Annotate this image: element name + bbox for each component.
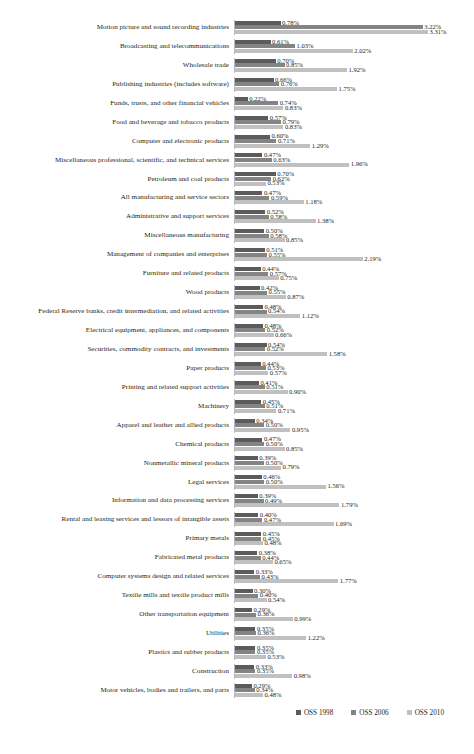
- category-label: All manufacturing and service sectors: [2, 193, 234, 202]
- bar-1: [235, 456, 258, 460]
- bar-1: [235, 665, 254, 669]
- bar-3: [235, 238, 285, 242]
- bar-3: [235, 314, 300, 318]
- chart-row: Miscellaneous manufacturing0.50%0.58%0.8…: [2, 226, 472, 245]
- bar-1: [235, 608, 252, 612]
- bar-line: 0.85%: [235, 238, 472, 242]
- bar-1: [235, 438, 262, 442]
- bar-group: 0.66%0.76%1.75%: [234, 77, 472, 92]
- chart-row: Food and beverage and tobacco products0.…: [2, 113, 472, 132]
- bar-3: [235, 106, 283, 110]
- legend-item-1[interactable]: OSS 1998: [296, 709, 333, 717]
- bar-3: [235, 144, 310, 148]
- bar-3: [235, 428, 290, 432]
- chart-row: Other transportation equipment0.29%0.36%…: [2, 605, 472, 624]
- bar-line: 0.51%: [235, 385, 472, 389]
- bar-1: [235, 78, 274, 82]
- bar-1: [235, 684, 252, 688]
- bar-2: [235, 499, 264, 503]
- bar-3: [235, 579, 338, 583]
- legend-item-3[interactable]: OSS 2010: [407, 709, 444, 717]
- legend-swatch-icon: [296, 710, 301, 715]
- chart-row: All manufacturing and service sectors0.4…: [2, 188, 472, 207]
- bar-3: [235, 295, 286, 299]
- bar-group: 0.48%0.52%0.66%: [234, 323, 472, 338]
- bar-line: 1.56%: [235, 485, 472, 489]
- bar-line: 0.36%: [235, 631, 472, 635]
- category-label: Electrical equipment, appliances, and co…: [2, 326, 234, 335]
- category-label: Utilities: [2, 629, 234, 638]
- bar-line: 1.18%: [235, 200, 472, 204]
- bar-line: 1.12%: [235, 314, 472, 318]
- bar-2: [235, 291, 267, 295]
- bar-2: [235, 385, 265, 389]
- bar-line: 1.69%: [235, 522, 472, 526]
- bar-1: [235, 40, 271, 44]
- chart-legend: OSS 1998OSS 2006OSS 2010: [2, 709, 472, 717]
- bar-group: 0.39%0.50%0.79%: [234, 455, 472, 470]
- bar-group: 0.29%0.36%0.99%: [234, 607, 472, 622]
- bar-value-label: 0.65%: [273, 559, 292, 566]
- bar-value-label: 3.31%: [428, 29, 447, 36]
- bar-3: [235, 598, 267, 602]
- bar-3: [235, 409, 276, 413]
- bar-value-label: 1.92%: [347, 67, 366, 74]
- bar-1: [235, 59, 276, 63]
- bar-value-label: 0.83%: [283, 105, 302, 112]
- category-label: Construction: [2, 667, 234, 676]
- bar-2: [235, 556, 261, 560]
- bar-2: [235, 442, 264, 446]
- chart-row: Motion picture and sound recording indus…: [2, 18, 472, 37]
- bar-line: 0.47%: [235, 518, 472, 522]
- bar-value-label: 1.18%: [304, 199, 323, 206]
- category-label: Administrative and support services: [2, 212, 234, 221]
- bar-line: 1.38%: [235, 219, 472, 223]
- bar-1: [235, 627, 255, 631]
- bar-2: [235, 63, 285, 67]
- chart-row: Federal Reserve banks, credit intermedia…: [2, 302, 472, 321]
- category-label: Plastics and rubber products: [2, 648, 234, 657]
- bar-3: [235, 257, 363, 261]
- bar-2: [235, 328, 265, 332]
- chart-row: Securities, commodity contracts, and inv…: [2, 340, 472, 359]
- bar-3: [235, 30, 428, 34]
- bar-group: 0.78%3.22%3.31%: [234, 20, 472, 35]
- legend-item-2[interactable]: OSS 2006: [351, 709, 388, 717]
- bar-3: [235, 503, 339, 507]
- chart-row: Funds, trusts, and other financial vehic…: [2, 94, 472, 113]
- bar-group: 0.29%0.34%0.48%: [234, 683, 472, 698]
- category-label: Other transportation equipment: [2, 610, 234, 619]
- bar-line: 0.36%: [235, 613, 472, 617]
- bar-line: 0.70%: [235, 59, 472, 63]
- bar-line: 0.83%: [235, 125, 472, 129]
- bar-2: [235, 650, 255, 654]
- chart-row: Management of companies and enterprises0…: [2, 245, 472, 264]
- category-label: Furniture and related products: [2, 269, 234, 278]
- bar-group: 0.42%0.55%0.87%: [234, 285, 472, 300]
- bar-group: 0.39%0.49%1.79%: [234, 493, 472, 508]
- bar-line: 0.53%: [235, 182, 472, 186]
- bar-line: 0.55%: [235, 253, 472, 257]
- category-label: Nonmetallic mineral products: [2, 459, 234, 468]
- bar-line: 0.57%: [235, 116, 472, 120]
- bar-1: [235, 97, 248, 101]
- chart-row: Apparel and leather and allied products0…: [2, 416, 472, 435]
- bar-1: [235, 381, 259, 385]
- bar-2: [235, 139, 276, 143]
- bar-group: 0.70%0.62%0.53%: [234, 171, 472, 186]
- category-label: Petroleum and coal products: [2, 175, 234, 184]
- bar-3: [235, 276, 279, 280]
- chart-row: Plastics and rubber products0.35%0.35%0.…: [2, 643, 472, 662]
- bar-value-label: 0.48%: [263, 540, 282, 547]
- bar-value-label: 0.98%: [292, 673, 311, 680]
- bar-group: 0.44%0.57%0.75%: [234, 266, 472, 281]
- bar-line: 0.55%: [235, 291, 472, 295]
- bar-1: [235, 135, 270, 139]
- bar-value-label: 0.75%: [279, 275, 298, 282]
- bar-1: [235, 324, 263, 328]
- bar-line: 0.66%: [235, 78, 472, 82]
- bar-value-label: 0.66%: [274, 332, 293, 339]
- category-label: Primary metals: [2, 534, 234, 543]
- category-label: Miscellaneous professional, scientific, …: [2, 156, 234, 165]
- category-label: Wood products: [2, 288, 234, 297]
